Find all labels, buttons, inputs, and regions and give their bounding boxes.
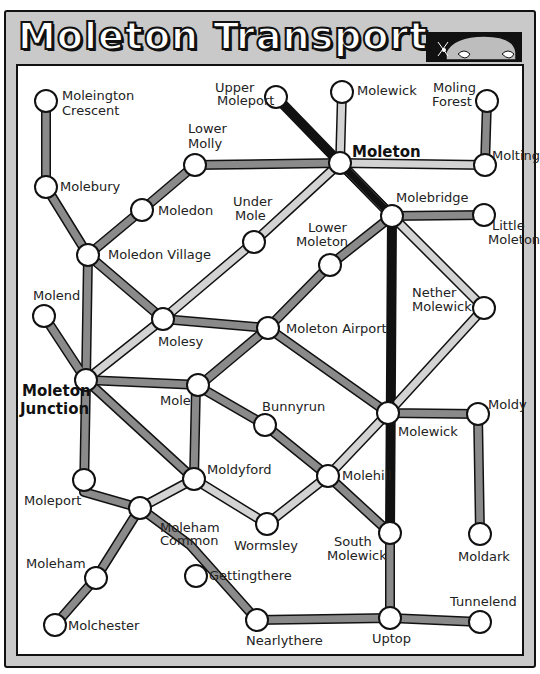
station-south-molewick[interactable]: [379, 522, 401, 544]
station-gettingthere[interactable]: [185, 565, 207, 587]
label-molend: Molend: [33, 288, 80, 303]
label-south-molewick: SouthMolewick: [327, 534, 387, 563]
station-moleport[interactable]: [73, 469, 95, 491]
station-molend[interactable]: [33, 305, 55, 327]
station-moldyford[interactable]: [183, 468, 205, 490]
station-uptop[interactable]: [379, 607, 401, 629]
label-lower-molly: LowerMolly: [188, 121, 228, 151]
station-lower-moleton[interactable]: [319, 254, 341, 276]
station-lower-molly[interactable]: [184, 154, 206, 176]
station-molchester[interactable]: [44, 614, 66, 636]
station-moleham-common[interactable]: [129, 497, 151, 519]
label-molting: Molting: [492, 148, 540, 163]
station-molebridge[interactable]: [381, 205, 403, 227]
station-tunnelend[interactable]: [469, 611, 491, 633]
station-moledon-village[interactable]: [77, 244, 99, 266]
label-nearlythere: Nearlythere: [246, 633, 323, 648]
label-bunnyrun: Bunnyrun: [262, 399, 325, 414]
label-mole: Mole: [160, 393, 191, 408]
station-moledon[interactable]: [131, 199, 153, 221]
label-lower-moleton: LowerMoleton: [296, 220, 348, 249]
label-molebury: Molebury: [60, 179, 121, 194]
station-molesy[interactable]: [152, 308, 174, 330]
station-moleington-crescent[interactable]: [35, 90, 57, 112]
station-moldy[interactable]: [467, 403, 489, 425]
station-moleton[interactable]: [329, 152, 351, 174]
label-molebridge: Molebridge: [396, 190, 469, 205]
station-bunnyrun[interactable]: [254, 414, 276, 436]
label-tunnelend: Tunnelend: [449, 594, 517, 609]
label-molchester: Molchester: [68, 618, 140, 633]
station-molebury[interactable]: [35, 176, 57, 198]
label-uptop: Uptop: [372, 631, 411, 646]
label-moleton-junction: MoletonJunction: [19, 382, 91, 418]
label-molewick: Molewick: [398, 424, 458, 439]
label-molehill: Molehill: [342, 468, 392, 483]
label-moledon-village: Moledon Village: [108, 247, 211, 262]
label-wormsley: Wormsley: [234, 538, 298, 553]
station-wormsley[interactable]: [256, 513, 278, 535]
label-under-mole: UnderMole: [233, 194, 273, 223]
station-nether-molewick[interactable]: [473, 297, 495, 319]
station-molewick[interactable]: [377, 402, 399, 424]
label-moleton: Moleton: [352, 143, 421, 161]
transit-map: .ln { fill:none; stroke-linecap:round; s…: [0, 0, 540, 674]
label-moldy: Moldy: [488, 397, 527, 412]
station-moldark[interactable]: [469, 523, 491, 545]
label-moleton-airport: Moleton Airport: [286, 321, 387, 336]
station-nearlythere[interactable]: [246, 609, 268, 631]
label-gettingthere: Gettingthere: [209, 568, 292, 583]
station-molewick-north[interactable]: [331, 81, 353, 103]
label-little-moleton: LittleMoleton: [488, 218, 540, 247]
station-molehill[interactable]: [317, 465, 339, 487]
label-moleport: Moleport: [24, 493, 81, 508]
label-moledon: Moledon: [158, 203, 213, 218]
label-upper-moleport: UpperMoleport: [215, 80, 274, 108]
station-moleham[interactable]: [85, 567, 107, 589]
station-under-mole[interactable]: [243, 231, 265, 253]
station-moleton-airport[interactable]: [257, 317, 279, 339]
label-moleham: Moleham: [26, 556, 86, 571]
label-moleington: MoleingtonCrescent: [62, 88, 134, 118]
label-moldyford: Moldyford: [207, 462, 272, 477]
label-moleham-common: MolehamCommon: [160, 520, 220, 548]
label-moldark: Moldark: [458, 549, 510, 564]
label-molesy: Molesy: [158, 334, 204, 349]
label-moling-forest: MolingForest: [432, 80, 476, 109]
station-moling-forest[interactable]: [476, 90, 498, 112]
label-molewick-north: Molewick: [357, 83, 417, 98]
